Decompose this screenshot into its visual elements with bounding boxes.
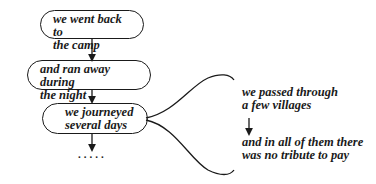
node-text: the night xyxy=(40,89,140,102)
branch-first: we passed through a few villages xyxy=(242,86,338,112)
node-text: the camp xyxy=(53,39,133,52)
branch-second: and in all of them there was no tribute … xyxy=(242,136,363,162)
node-went-back: we went back to the camp xyxy=(40,10,144,39)
branch-text: a few villages xyxy=(242,99,338,112)
node-ran-away: and ran away during the night xyxy=(27,60,151,90)
node-text: several days xyxy=(65,119,137,132)
brace-lower xyxy=(146,120,234,175)
branch-text: was no tribute to pay xyxy=(242,149,363,162)
node-text: and ran away during xyxy=(40,63,140,89)
brace-upper xyxy=(146,75,234,118)
node-text: we went back to xyxy=(53,13,133,39)
continuation-dots: ..... xyxy=(78,148,107,160)
node-journeyed: we journeyed several days xyxy=(42,103,148,134)
